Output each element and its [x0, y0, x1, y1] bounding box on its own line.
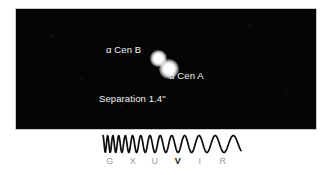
band-label-g: G: [103, 155, 117, 167]
band-label-r: R: [216, 155, 230, 167]
band-label-u: U: [148, 155, 162, 167]
spectrum-waveform: [16, 131, 316, 157]
band-label-v: V: [171, 155, 185, 167]
label-alpha-cen-b: α Cen B: [106, 45, 141, 55]
label-alpha-cen-a: α Cen A: [169, 71, 204, 81]
spectrum-strip: GXUVIR: [16, 131, 316, 175]
spectrum-band-labels: GXUVIR: [16, 155, 316, 169]
band-label-x: X: [126, 155, 140, 167]
label-separation: Separation 1.4": [99, 94, 166, 104]
sky-image-panel: α Cen B α Cen A Separation 1.4": [16, 9, 316, 129]
band-label-i: I: [193, 155, 207, 167]
